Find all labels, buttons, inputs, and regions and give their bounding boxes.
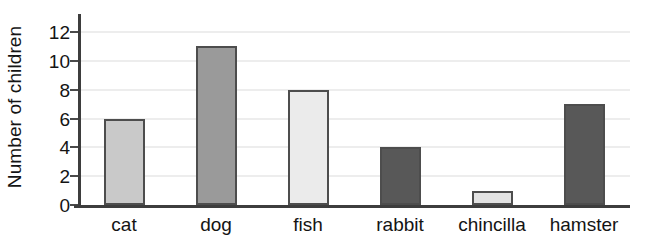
x-axis-tick-labels: catdogfishrabbitchincillahamster bbox=[78, 211, 630, 247]
gridline bbox=[81, 89, 630, 90]
bar bbox=[472, 191, 513, 205]
gridline bbox=[81, 147, 630, 148]
plot-area bbox=[78, 14, 630, 207]
gridline bbox=[81, 32, 630, 33]
y-axis-tick-labels: 024681012 bbox=[36, 0, 70, 247]
x-axis-tick-label: dog bbox=[200, 215, 232, 236]
x-axis-tick-label: rabbit bbox=[376, 215, 424, 236]
x-axis-tick-label: hamster bbox=[550, 215, 619, 236]
y-axis-title-text: Number of children bbox=[4, 25, 26, 187]
bar bbox=[196, 46, 237, 205]
x-axis-line bbox=[74, 205, 630, 208]
y-axis-tick-label: 4 bbox=[36, 138, 70, 157]
y-axis-line bbox=[78, 14, 81, 207]
x-axis-tick-label: cat bbox=[111, 215, 136, 236]
bar bbox=[104, 119, 145, 206]
gridline bbox=[81, 176, 630, 177]
gridline bbox=[81, 60, 630, 61]
y-axis-tick-label: 6 bbox=[36, 109, 70, 128]
y-axis-tick-label: 8 bbox=[36, 80, 70, 99]
y-axis-tick-label: 0 bbox=[36, 196, 70, 215]
bar bbox=[380, 147, 421, 205]
bar bbox=[288, 90, 329, 205]
y-axis-title: Number of children bbox=[0, 0, 30, 213]
y-axis-tick-label: 10 bbox=[36, 51, 70, 70]
y-axis-tick-label: 12 bbox=[36, 23, 70, 42]
x-axis-tick-label: chincilla bbox=[458, 215, 526, 236]
x-axis-tick-label: fish bbox=[293, 215, 323, 236]
bar bbox=[564, 104, 605, 205]
y-axis-tick-label: 2 bbox=[36, 167, 70, 186]
bar-chart: Number of children 024681012 catdogfishr… bbox=[0, 0, 646, 247]
gridline bbox=[81, 118, 630, 119]
